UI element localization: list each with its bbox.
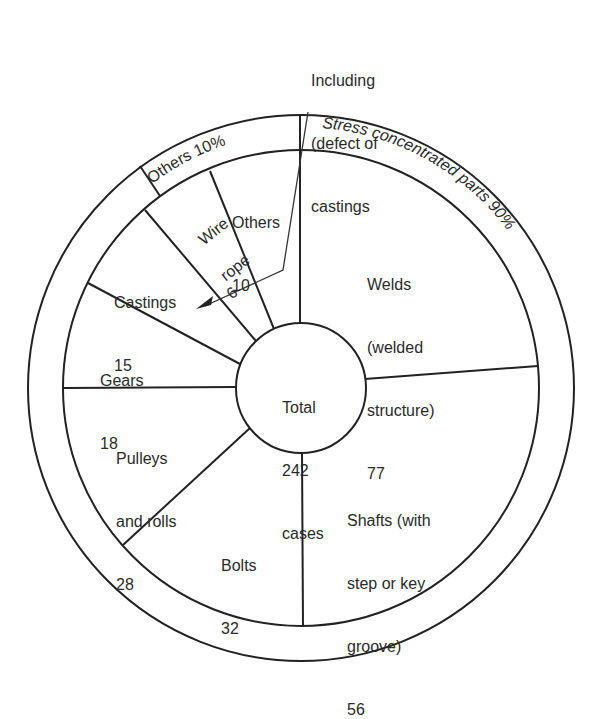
sector-label-bolts: Bolts 32 bbox=[221, 513, 257, 660]
sector-label-others: Others 10 bbox=[232, 170, 280, 317]
center-total-label: Total 242 cases bbox=[282, 355, 324, 565]
sector-label-shafts: Shafts (with step or key groove) 56 bbox=[347, 468, 431, 719]
annotation-text: Including (defect of castings bbox=[311, 28, 378, 238]
arrowhead-icon bbox=[196, 296, 213, 309]
sector-label-castings: Castings 15 bbox=[114, 250, 176, 397]
sector-label-welds: Welds (welded structure) 77 bbox=[367, 232, 435, 505]
